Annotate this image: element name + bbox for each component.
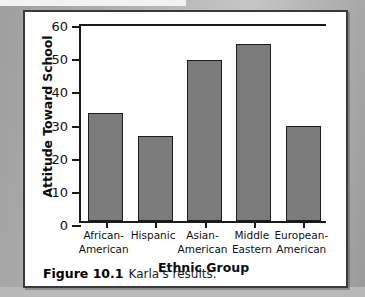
- bar-chart: Attitude Toward School 0102030405060 Afr…: [25, 12, 346, 260]
- backdrop-footer-band: [0, 287, 365, 297]
- bar: [236, 44, 271, 221]
- figure-caption-text: Karla's results.: [129, 267, 217, 281]
- x-axis-tick: [106, 221, 108, 228]
- y-axis-tick: 30: [72, 126, 81, 128]
- x-axis-tick: [303, 221, 305, 228]
- x-axis-tick: [155, 221, 157, 228]
- bar: [88, 113, 123, 221]
- y-axis-tick: 10: [72, 192, 81, 194]
- x-axis-tick-label-line1: Asian-: [186, 229, 218, 241]
- y-axis-tick-label: 30: [51, 119, 68, 135]
- y-axis-tick-label: 60: [51, 19, 68, 35]
- bar: [138, 136, 173, 221]
- x-axis-tick-labels: African-AmericanHispanicAsian-AmericanMi…: [79, 228, 328, 262]
- y-axis-tick-label: 50: [51, 52, 68, 68]
- x-axis-tick-label: European-American: [273, 228, 330, 256]
- y-axis-tick-label: 20: [51, 152, 68, 168]
- x-axis-tick-label-line2: American: [75, 242, 132, 256]
- plot-area: 0102030405060: [79, 24, 326, 223]
- y-axis-tick-label: 0: [60, 218, 68, 234]
- y-axis-tick-label: 10: [51, 185, 68, 201]
- y-axis-tick: 50: [72, 59, 81, 61]
- y-axis-tick-label: 40: [51, 85, 68, 101]
- bar: [286, 126, 321, 221]
- x-axis-tick-label-line2: American: [273, 242, 330, 256]
- figure-caption-label: Figure 10.1: [43, 266, 124, 281]
- backdrop-highlight: [0, 0, 186, 6]
- y-axis-tick: 60: [72, 26, 81, 28]
- y-axis-tick: 0: [72, 225, 81, 227]
- figure-caption: Figure 10.1Karla's results.: [43, 266, 333, 281]
- x-axis-tick-label-line1: Hispanic: [131, 229, 176, 241]
- figure-panel: Attitude Toward School 0102030405060 Afr…: [23, 10, 348, 288]
- x-axis-tick-label-line1: Middle: [235, 229, 270, 241]
- x-axis-tick: [254, 221, 256, 228]
- x-axis-tick: [205, 221, 207, 228]
- x-axis-tick-label-line1: African-: [84, 229, 124, 241]
- bar: [187, 60, 222, 221]
- y-axis-tick: 40: [72, 92, 81, 94]
- x-axis-tick-label-line1: European-: [274, 229, 328, 241]
- y-axis-tick: 20: [72, 159, 81, 161]
